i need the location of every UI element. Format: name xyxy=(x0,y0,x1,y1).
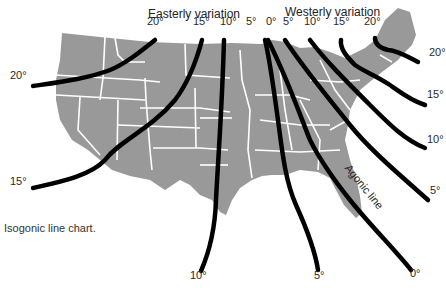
left-degree-label: 15° xyxy=(10,176,27,187)
top-degree-label: 20° xyxy=(364,16,381,27)
bottom-degree-label: 10° xyxy=(190,270,207,281)
bottom-degree-label: 5° xyxy=(314,270,325,281)
right-degree-label: 10° xyxy=(427,134,444,145)
bottom-degree-label: 0° xyxy=(410,268,421,279)
figure-caption: Isogonic line chart. xyxy=(4,223,96,234)
left-degree-label: 20° xyxy=(10,70,27,81)
isogonic-chart-figure: Easterly variation Westerly variation 20… xyxy=(0,0,446,288)
top-degree-label: 10° xyxy=(304,16,321,27)
right-degree-label: 5° xyxy=(430,185,441,196)
top-degree-label: 5° xyxy=(246,16,257,27)
top-degree-label: 5° xyxy=(283,16,294,27)
right-degree-label: 15° xyxy=(427,89,444,100)
right-degree-label: 20° xyxy=(429,47,446,58)
us-map-svg xyxy=(0,0,446,288)
top-degree-label: 0° xyxy=(266,16,277,27)
top-degree-label: 15° xyxy=(333,16,350,27)
top-degree-label: 15° xyxy=(193,16,210,27)
top-degree-label: 10° xyxy=(220,16,237,27)
top-degree-label: 20° xyxy=(147,16,164,27)
